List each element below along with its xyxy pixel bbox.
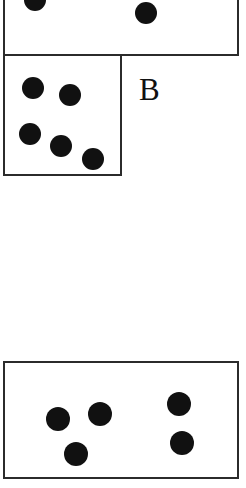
upper-pair-row [3,0,239,56]
pip [46,407,70,431]
cell-five [3,54,122,176]
five-face-row [3,54,122,176]
pip [59,84,81,106]
pip [22,77,44,99]
dice-diagram: B [0,0,246,488]
pip [167,392,191,416]
pip [64,442,88,466]
cell-lower-right [120,361,239,479]
cell-upper-left [3,0,122,56]
cell-lower-left [3,361,122,479]
pip [82,148,104,170]
lower-pair-row [3,361,239,479]
pip [135,2,157,24]
cell-upper-right [120,0,239,56]
label-b: B [139,74,160,105]
pip [50,135,72,157]
pip [19,123,41,145]
pip [24,0,46,11]
pip [170,431,194,455]
pip [88,402,112,426]
